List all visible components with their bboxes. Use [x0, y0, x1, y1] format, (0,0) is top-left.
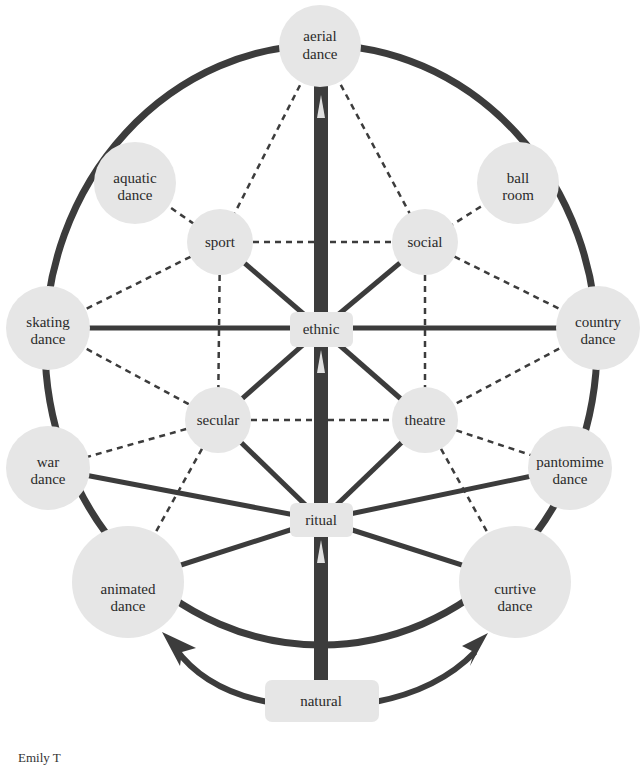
label-social: social — [408, 234, 443, 250]
label-secular: secular — [197, 412, 239, 428]
label-aquatic-1: aquatic — [113, 170, 157, 186]
label-curtive-1: curtive — [494, 581, 536, 597]
label-animated-1: animated — [101, 581, 156, 597]
label-war-1: war — [37, 454, 60, 470]
label-aerial-1: aerial — [303, 28, 336, 44]
label-aerial-2: dance — [303, 46, 338, 62]
label-country-1: country — [575, 314, 621, 330]
label-ballroom-1: ball — [507, 170, 530, 186]
label-pantomime-1: pantomime — [536, 454, 604, 470]
footer-caption: Emily T — [18, 750, 61, 766]
label-theatre: theatre — [405, 412, 446, 428]
label-country-2: dance — [581, 331, 616, 347]
label-war-2: dance — [31, 471, 66, 487]
label-animated-2: dance — [111, 598, 146, 614]
label-skating-2: dance — [31, 331, 66, 347]
label-curtive-2: dance — [498, 598, 533, 614]
arrow-left-up-icon — [162, 632, 196, 666]
label-aquatic-2: dance — [118, 187, 153, 203]
label-ballroom-2: room — [502, 187, 534, 203]
label-ritual: ritual — [305, 512, 337, 528]
label-ethnic: ethnic — [303, 321, 340, 337]
label-pantomime-2: dance — [553, 471, 588, 487]
label-sport: sport — [205, 234, 236, 250]
central-trunk — [314, 86, 328, 700]
label-natural: natural — [300, 693, 342, 709]
label-skating-1: skating — [26, 314, 70, 330]
